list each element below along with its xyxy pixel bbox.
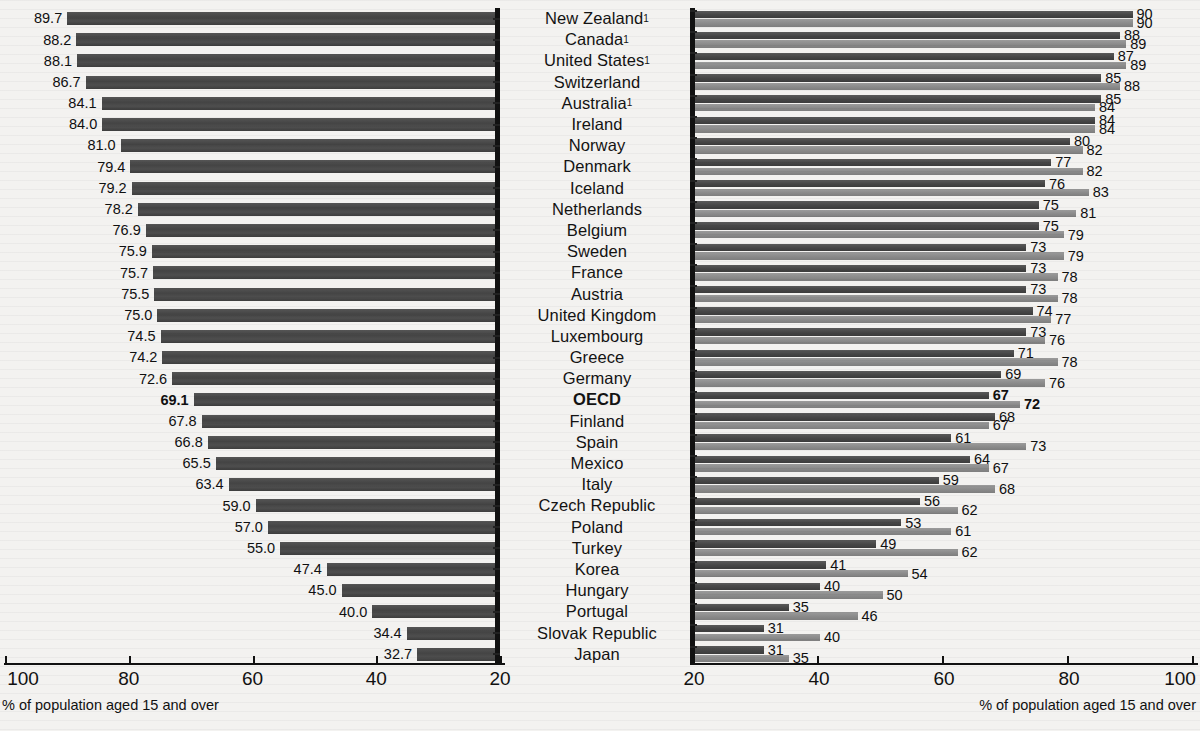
right-bar-light bbox=[695, 337, 1045, 344]
category-label: Luxembourg bbox=[508, 326, 686, 347]
right-bar-line: 67 bbox=[695, 421, 1198, 430]
category-label: New Zealand1 bbox=[508, 8, 686, 29]
left-bar bbox=[407, 627, 495, 640]
left-bar-row: 32.7 bbox=[4, 644, 495, 665]
category-label-text: Australia bbox=[562, 94, 627, 113]
category-label: Finland bbox=[508, 411, 686, 432]
category-label: United Kingdom bbox=[508, 305, 686, 326]
right-bar-row: 7378 bbox=[695, 262, 1198, 283]
right-bar-light-value-label: 76 bbox=[1049, 333, 1065, 348]
right-bar-line: 77 bbox=[695, 158, 1198, 167]
right-bar-line: 87 bbox=[695, 52, 1198, 61]
left-axis-tick-label: 100 bbox=[7, 668, 39, 690]
right-bar-light-value-label: 84 bbox=[1099, 122, 1115, 137]
category-label: Belgium bbox=[508, 220, 686, 241]
right-bar-line: 72 bbox=[695, 400, 1198, 409]
right-bar-line: 62 bbox=[695, 506, 1198, 515]
right-axis-tick-label: 100 bbox=[1164, 668, 1196, 690]
left-axis-tick bbox=[5, 656, 7, 663]
left-bar-row: 69.1 bbox=[4, 389, 495, 410]
right-bar-line: 90 bbox=[695, 19, 1198, 28]
left-row-tick bbox=[493, 102, 500, 104]
right-bar-line: 64 bbox=[695, 455, 1198, 464]
right-row-tick bbox=[690, 582, 697, 584]
left-bar-row: 40.0 bbox=[4, 601, 495, 622]
left-row-tick bbox=[493, 441, 500, 443]
right-row-tick bbox=[690, 285, 697, 287]
category-label: Denmark bbox=[508, 156, 686, 177]
right-bar-dark bbox=[695, 32, 1120, 39]
left-bar bbox=[327, 563, 495, 576]
left-row-tick bbox=[493, 526, 500, 528]
right-bar-light-value-label: 40 bbox=[824, 630, 840, 645]
left-chart-panel: 89.788.288.186.784.184.081.079.479.278.2… bbox=[0, 0, 504, 700]
left-row-tick bbox=[493, 187, 500, 189]
right-bar-dark bbox=[695, 159, 1051, 166]
left-bar bbox=[417, 648, 495, 661]
right-bar-line: 78 bbox=[695, 294, 1198, 303]
left-x-axis-tick-labels: 10080604020 bbox=[0, 668, 520, 692]
left-bar-row: 65.5 bbox=[4, 453, 495, 474]
right-bar-line: 41 bbox=[695, 561, 1198, 570]
left-bar-row: 72.6 bbox=[4, 368, 495, 389]
left-bar bbox=[153, 266, 495, 279]
right-bar-light-value-label: 78 bbox=[1062, 291, 1078, 306]
left-bar bbox=[67, 12, 495, 25]
right-row-tick bbox=[690, 116, 697, 118]
right-bar-line: 50 bbox=[695, 591, 1198, 600]
left-axis-tick bbox=[129, 656, 131, 663]
right-bar-line: 84 bbox=[695, 103, 1198, 112]
left-bar-value-label: 59.0 bbox=[222, 499, 250, 514]
right-bar-row: 5662 bbox=[695, 495, 1198, 516]
chart-page: 89.788.288.186.784.184.081.079.479.278.2… bbox=[0, 0, 1200, 731]
left-bar-row: 45.0 bbox=[4, 580, 495, 601]
left-axis-tick bbox=[376, 656, 378, 663]
right-bar-light-value-label: 46 bbox=[862, 609, 878, 624]
right-bar-line: 46 bbox=[695, 612, 1198, 621]
right-bar-row: 6173 bbox=[695, 432, 1198, 453]
right-bar-line: 75 bbox=[695, 201, 1198, 210]
right-bar-light-value-label: 78 bbox=[1062, 355, 1078, 370]
left-row-tick bbox=[493, 314, 500, 316]
category-label: OECD bbox=[508, 389, 686, 410]
right-bar-dark bbox=[695, 392, 989, 399]
left-bar bbox=[280, 542, 495, 555]
right-chart-panel: 9090888987898588858484848082778276837581… bbox=[688, 0, 1200, 700]
right-bar-dark bbox=[695, 371, 1001, 378]
left-row-tick bbox=[493, 81, 500, 83]
right-row-tick bbox=[690, 10, 697, 12]
left-bar-value-label: 89.7 bbox=[34, 11, 62, 26]
right-bar-row: 8484 bbox=[695, 114, 1198, 135]
right-bar-row: 3140 bbox=[695, 622, 1198, 643]
right-bar-line: 68 bbox=[695, 413, 1198, 422]
left-row-tick bbox=[493, 505, 500, 507]
right-row-tick bbox=[690, 413, 697, 415]
left-bar-row: 79.4 bbox=[4, 156, 495, 177]
left-bar-value-label: 75.0 bbox=[124, 308, 152, 323]
left-bar-value-label: 79.4 bbox=[97, 160, 125, 175]
category-label: Poland bbox=[508, 517, 686, 538]
right-bar-dark bbox=[695, 138, 1070, 145]
left-bar-value-label: 74.2 bbox=[129, 350, 157, 365]
right-bar-light bbox=[695, 549, 958, 556]
right-bar-light bbox=[695, 231, 1064, 238]
right-bar-line: 90 bbox=[695, 10, 1198, 19]
right-bar-light bbox=[695, 570, 908, 577]
category-label-column: New Zealand1Canada1United States1Switzer… bbox=[508, 8, 686, 663]
right-bar-line: 76 bbox=[695, 379, 1198, 388]
left-row-tick bbox=[493, 229, 500, 231]
left-row-tick bbox=[493, 251, 500, 253]
right-bar-line: 31 bbox=[695, 646, 1198, 655]
left-bar bbox=[161, 330, 495, 343]
left-bar-row: 74.2 bbox=[4, 347, 495, 368]
right-bar-row: 3546 bbox=[695, 601, 1198, 622]
right-axis-tick bbox=[1067, 656, 1069, 663]
right-row-tick bbox=[690, 391, 697, 393]
right-bar-dark bbox=[695, 561, 826, 568]
right-row-tick bbox=[690, 370, 697, 372]
left-bar bbox=[146, 224, 495, 237]
right-row-tick bbox=[690, 158, 697, 160]
left-bar-row: 57.0 bbox=[4, 517, 495, 538]
left-bar-value-label: 57.0 bbox=[235, 520, 263, 535]
right-bar-light-value-label: 77 bbox=[1055, 312, 1071, 327]
